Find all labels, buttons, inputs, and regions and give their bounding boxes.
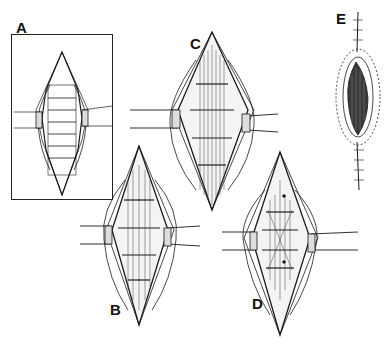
panel-d-drawing [222,152,358,335]
panel-e-drawing [336,12,380,190]
panel-b-drawing [80,146,200,325]
surgical-figure: A C E B D [0,0,388,348]
panel-a-drawing [14,52,112,195]
illustration-drawing [0,0,388,348]
